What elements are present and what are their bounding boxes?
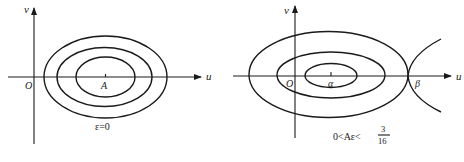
separatrix-orbit-ellipse (249, 32, 408, 118)
origin-label: O (25, 80, 32, 91)
phase-portrait-figure: u v O A ε=0 u v O α β 0<Aε< 3 16 (0, 0, 464, 162)
left-phase-portrait: u v O A ε=0 (8, 3, 212, 144)
center-label: A (100, 80, 108, 91)
fraction-numerator: 3 (381, 124, 385, 134)
center-label: α (328, 78, 334, 89)
caption-epsilon-zero: ε=0 (95, 121, 110, 132)
caption-parameter-range: 0<Aε< 3 16 (333, 124, 390, 146)
u-axis-label: u (206, 70, 212, 82)
u-axis-label: u (456, 70, 462, 82)
v-axis-label: v (284, 4, 289, 16)
v-axis-label: v (24, 3, 29, 15)
fraction-denominator: 16 (378, 136, 387, 146)
saddle-label: β (414, 78, 420, 89)
right-phase-portrait: u v O α β 0<Aε< 3 16 (233, 4, 462, 146)
origin-label: O (286, 78, 293, 89)
caption-prefix: 0<Aε< (333, 131, 361, 142)
